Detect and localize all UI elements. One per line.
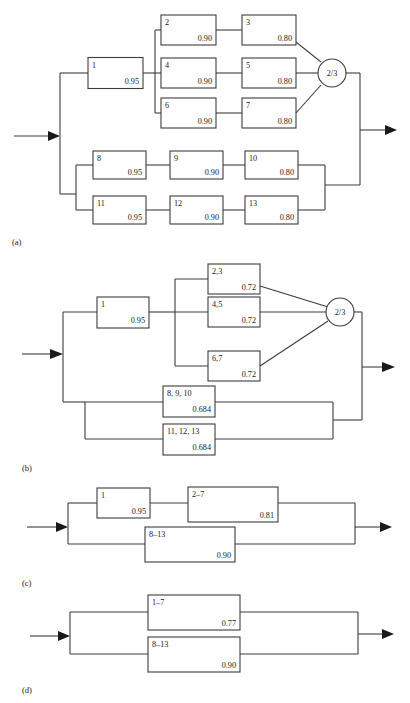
block-8910-b-id: 8, 9, 10	[167, 389, 192, 398]
block-1-a-value: 0.95	[125, 77, 139, 86]
block-67-b-id: 6,7	[212, 354, 222, 363]
panel-a: 1 0.95 2 0.90 3 0.80 4 0.90 5 0.80 6 0.9…	[0, 0, 410, 250]
block-5-a-value: 0.80	[278, 77, 292, 86]
wire-23-to-node-b	[260, 286, 328, 307]
panel-b-canvas: 1 0.95 2,3 0.72 4,5 0.72 6,7 0.72 2/3 8,…	[0, 255, 410, 470]
block-23-b-value: 0.72	[242, 283, 256, 292]
block-813-c-value: 0.90	[217, 551, 231, 560]
block-1-c-id: 1	[101, 491, 105, 500]
block-10-a-value: 0.80	[280, 168, 294, 177]
block-67-b-value: 0.72	[242, 370, 256, 379]
block-4-a-id: 4	[165, 61, 169, 70]
block-111213-b-value: 0.684	[193, 443, 211, 452]
block-1-a-id: 1	[92, 61, 96, 70]
panel-c-label: (c)	[22, 578, 31, 588]
panel-b-label: (b)	[22, 463, 32, 473]
block-4-a-value: 0.90	[198, 77, 212, 86]
block-1-b-value: 0.95	[131, 316, 145, 325]
block-17-d-id: 1–7	[152, 598, 164, 607]
block-8-a-value: 0.95	[128, 168, 142, 177]
input-arrowhead-a	[48, 131, 60, 141]
voting-node-a-label: 2/3	[327, 69, 337, 78]
block-9-a-id: 9	[174, 154, 178, 163]
block-3-a-value: 0.80	[278, 34, 292, 43]
block-11-a-id: 11	[97, 199, 105, 208]
block-10-a-id: 10	[249, 154, 257, 163]
wire-7-to-node-a	[296, 85, 321, 113]
panel-a-label: (a)	[12, 237, 21, 247]
block-6-a-value: 0.90	[198, 117, 212, 126]
panel-b: 1 0.95 2,3 0.72 4,5 0.72 6,7 0.72 2/3 8,…	[0, 255, 410, 470]
input-arrowhead-b	[50, 349, 63, 359]
block-5-a-id: 5	[246, 61, 250, 70]
block-7-a-value: 0.80	[278, 117, 292, 126]
wire-67-to-node-b	[260, 321, 328, 366]
block-13-a-id: 13	[249, 199, 257, 208]
block-17-d-value: 0.77	[222, 619, 236, 628]
block-27-c-id: 2–7	[192, 490, 204, 499]
block-2-a-value: 0.90	[198, 34, 212, 43]
block-27-c-value: 0.81	[260, 511, 274, 520]
wire-3-to-node-a	[296, 42, 321, 62]
panel-c: 1 0.95 2–7 0.81 8–13 0.90	[0, 483, 410, 578]
block-23-b-id: 2,3	[212, 267, 222, 276]
panel-a-canvas: 1 0.95 2 0.90 3 0.80 4 0.90 5 0.80 6 0.9…	[0, 0, 410, 250]
block-2-a-id: 2	[165, 18, 169, 27]
output-arrowhead-d	[382, 629, 394, 639]
panel-d: 1–7 0.77 8–13 0.90	[0, 592, 410, 687]
block-813-d-id: 8–13	[152, 640, 168, 649]
block-7-a-id: 7	[246, 101, 250, 110]
input-arrowhead-d	[58, 631, 70, 641]
block-13-a-value: 0.80	[280, 213, 294, 222]
block-813-d-value: 0.90	[222, 661, 236, 670]
output-arrowhead-c	[380, 522, 392, 532]
panel-d-canvas: 1–7 0.77 8–13 0.90	[0, 592, 410, 687]
block-8910-b-value: 0.684	[193, 405, 211, 414]
block-1-b-id: 1	[101, 300, 105, 309]
block-45-b-id: 4,5	[212, 300, 222, 309]
input-arrowhead-c	[56, 522, 68, 532]
panel-c-canvas: 1 0.95 2–7 0.81 8–13 0.90	[0, 483, 410, 578]
block-11-a-value: 0.95	[128, 213, 142, 222]
block-3-a-id: 3	[246, 18, 250, 27]
block-9-a-value: 0.90	[205, 168, 219, 177]
output-arrowhead-b	[382, 362, 395, 372]
block-6-a-id: 6	[165, 101, 169, 110]
block-12-a-id: 12	[174, 199, 182, 208]
block-111213-b-id: 11, 12, 13	[167, 427, 199, 436]
block-45-b-value: 0.72	[242, 316, 256, 325]
block-12-a-value: 0.90	[205, 213, 219, 222]
panel-d-label: (d)	[22, 685, 32, 695]
voting-node-b-label: 2/3	[335, 308, 345, 317]
block-1-c-value: 0.95	[132, 507, 146, 516]
output-arrowhead-a	[385, 125, 397, 135]
block-8-a-id: 8	[97, 154, 101, 163]
block-813-c-id: 8–13	[149, 530, 165, 539]
